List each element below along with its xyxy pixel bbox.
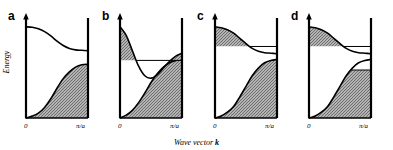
y-axis-arrow-d <box>306 13 312 20</box>
lower-band-fill-b <box>120 59 182 118</box>
lower-band-fill-a <box>26 64 88 118</box>
x-axis-label: Wave vector k <box>0 138 393 147</box>
y-axis-arrow-b <box>117 13 123 20</box>
band-plot-a <box>20 0 96 150</box>
panel-letter-a: a <box>8 10 15 22</box>
x-axis-label-text: Wave vector <box>174 138 215 147</box>
upper-band-fill-d <box>309 27 371 54</box>
y-axis-arrow-a <box>23 13 29 20</box>
y-axis-arrow-c <box>212 13 218 20</box>
lower-band-fill-d <box>309 59 371 118</box>
band-plot-b <box>114 0 190 150</box>
upper-band-curve-a <box>26 27 88 51</box>
upper-band-fill-c <box>215 27 277 54</box>
band-structure-figure: Energy a0π/ab0π/ac0π/ad0π/a Wave vector … <box>0 0 393 150</box>
lower-band-fill-c <box>215 59 277 118</box>
band-plot-c <box>209 0 285 150</box>
x-axis-label-symbol: k <box>215 138 219 147</box>
panel-letter-c: c <box>197 10 204 22</box>
y-axis-label-text: Energy <box>2 34 11 90</box>
band-plot-d <box>303 0 379 150</box>
panel-letter-d: d <box>291 10 298 22</box>
panel-letter-b: b <box>102 10 109 22</box>
